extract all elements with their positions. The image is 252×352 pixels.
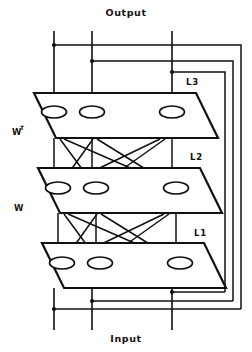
junction-dot-i2 xyxy=(90,299,94,303)
node-L3-1[interactable] xyxy=(42,106,67,118)
junction-dot-i1 xyxy=(52,307,56,311)
junction-dot-o2 xyxy=(90,59,94,63)
junction-dot-o1 xyxy=(52,43,56,47)
output-label: Output xyxy=(105,7,146,18)
input-label: Input xyxy=(110,333,141,344)
layer-label-L3: L3 xyxy=(186,77,199,87)
layer-label-L2: L2 xyxy=(190,152,203,162)
weight-label-wt-superscript: T xyxy=(20,124,25,131)
feedback-junction-dots-top xyxy=(52,43,174,74)
node-L2-2[interactable] xyxy=(84,182,109,194)
junction-dot-o3 xyxy=(170,70,174,74)
diagram-canvas: Output Input L3 L2 L1 W T W xyxy=(0,0,252,352)
node-L1-1[interactable] xyxy=(50,257,75,269)
node-L1-2[interactable] xyxy=(88,257,113,269)
weight-label-w: W xyxy=(14,203,24,213)
junction-dot-i3 xyxy=(170,290,174,294)
feedback-wires-bottom xyxy=(54,292,241,309)
network-diagram-svg: Output Input L3 L2 L1 W T W xyxy=(0,0,252,352)
layer-label-L1: L1 xyxy=(194,228,207,238)
node-L1-3[interactable] xyxy=(168,257,193,269)
node-L2-3[interactable] xyxy=(164,182,189,194)
node-L2-1[interactable] xyxy=(46,182,71,194)
node-L3-3[interactable] xyxy=(160,106,185,118)
node-L3-2[interactable] xyxy=(80,106,105,118)
